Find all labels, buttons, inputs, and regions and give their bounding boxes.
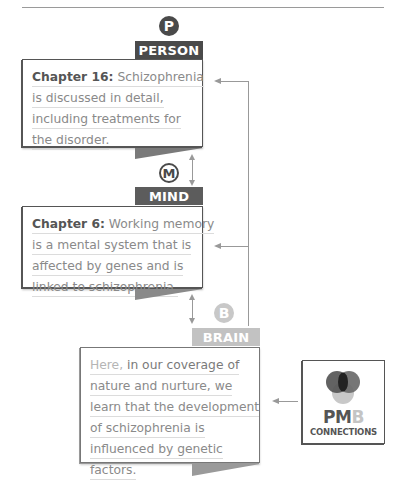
pmb-connections-logo: PMB CONNECTIONS bbox=[302, 360, 385, 444]
person-badge-icon: P bbox=[159, 16, 179, 36]
card-line: Here, in our coverage of bbox=[90, 357, 239, 375]
mind-card: Chapter 6: Working memory is a mental sy… bbox=[22, 206, 203, 288]
top-rule bbox=[22, 7, 384, 8]
card-line: Chapter 16: Schizophrenia bbox=[32, 69, 204, 87]
feedback-connector bbox=[248, 81, 249, 326]
pmb-word-pm: PM bbox=[323, 407, 351, 427]
brain-card-tail bbox=[192, 464, 260, 476]
card-line: affected by genes and is bbox=[32, 258, 183, 276]
bidirectional-connector bbox=[192, 158, 193, 182]
arrow-down-icon bbox=[189, 318, 195, 324]
pmb-word-b: B bbox=[351, 407, 363, 427]
pmb-subtitle: CONNECTIONS bbox=[303, 427, 384, 437]
arrow-down-icon bbox=[189, 180, 195, 186]
card-line: learn that the development bbox=[90, 399, 259, 417]
card-line: factors. bbox=[90, 462, 136, 480]
arrow-left-icon bbox=[272, 398, 279, 404]
card-line: is discussed in detail, bbox=[32, 90, 164, 108]
card-line: of schizophrenia is bbox=[90, 420, 205, 438]
card-line: Chapter 6: Working memory bbox=[32, 216, 214, 234]
card-line: the disorder. bbox=[32, 132, 109, 150]
card-line: nature and nurture, we bbox=[90, 378, 232, 396]
brain-card: Here, in our coverage of nature and nurt… bbox=[80, 347, 260, 463]
connector-from-pmb bbox=[278, 401, 298, 402]
person-card: Chapter 16: Schizophrenia is discussed i… bbox=[22, 59, 203, 147]
card-line: is a mental system that is bbox=[32, 237, 191, 255]
connector-to-mind bbox=[220, 246, 248, 247]
bidirectional-connector bbox=[192, 298, 193, 320]
person-tab: PERSON bbox=[135, 41, 203, 59]
mind-tab: MIND bbox=[135, 187, 203, 205]
arrow-left-icon bbox=[214, 78, 221, 84]
connector-to-person bbox=[220, 81, 248, 82]
mind-badge-icon: M bbox=[159, 163, 179, 183]
venn-three-circles-icon bbox=[302, 365, 385, 411]
brain-badge-icon: B bbox=[214, 303, 234, 323]
arrow-left-icon bbox=[214, 243, 221, 249]
brain-tab: BRAIN bbox=[192, 328, 260, 346]
card-line: influenced by genetic bbox=[90, 441, 223, 459]
card-line: including treatments for bbox=[32, 111, 181, 129]
